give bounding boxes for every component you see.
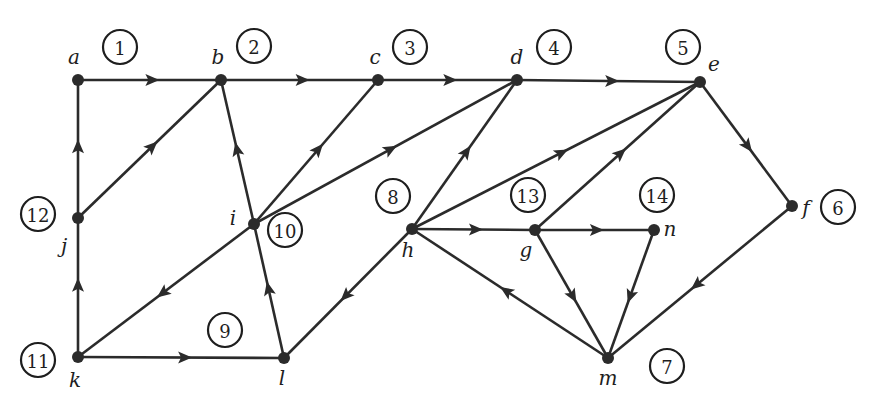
order-number-i: 10 xyxy=(274,221,297,242)
node-k xyxy=(72,351,84,363)
order-number-g: 13 xyxy=(517,186,540,207)
order-number-d: 4 xyxy=(548,38,559,59)
node-n xyxy=(648,224,660,236)
node-l xyxy=(278,352,290,364)
node-label-k: k xyxy=(69,368,81,392)
node-label-g: g xyxy=(520,238,533,262)
order-number-m: 7 xyxy=(661,357,672,378)
node-label-n: n xyxy=(664,217,677,241)
node-label-a: a xyxy=(68,45,80,69)
node-f xyxy=(786,200,798,212)
arrowhead-icon xyxy=(739,137,752,152)
node-label-f: f xyxy=(800,196,813,220)
arrowhead-icon xyxy=(157,284,172,297)
order-number-e: 5 xyxy=(677,38,688,59)
order-number-l: 9 xyxy=(219,321,230,342)
order-number-a: 1 xyxy=(114,38,125,59)
order-number-n: 14 xyxy=(646,186,669,207)
directed-graph-diagram: a1b2c3d4e5f6m7h8l9i10k11j12g13n14 xyxy=(0,0,885,404)
arrowhead-icon xyxy=(500,287,515,300)
node-g xyxy=(529,224,541,236)
labels-layer: a1b2c3d4e5f6m7h8l9i10k11j12g13n14 xyxy=(21,29,855,392)
node-label-l: l xyxy=(279,366,285,390)
node-label-j: j xyxy=(57,234,67,258)
order-number-j: 12 xyxy=(27,205,50,226)
edges-layer xyxy=(78,80,792,358)
node-j xyxy=(72,212,84,224)
order-number-b: 2 xyxy=(248,37,259,58)
edge-m-to-h xyxy=(412,229,608,358)
node-b xyxy=(215,74,227,86)
arrowheads-layer xyxy=(72,74,752,364)
node-c xyxy=(372,74,384,86)
node-m xyxy=(602,352,614,364)
node-label-h: h xyxy=(402,238,415,262)
node-label-i: i xyxy=(230,206,236,230)
node-a xyxy=(72,74,84,86)
node-e xyxy=(694,76,706,88)
node-d xyxy=(511,74,523,86)
node-label-b: b xyxy=(212,45,225,69)
node-label-m: m xyxy=(599,366,618,390)
node-h xyxy=(406,223,418,235)
node-label-e: e xyxy=(708,52,720,76)
order-number-c: 3 xyxy=(404,38,415,59)
arrowhead-icon xyxy=(458,146,471,161)
node-i xyxy=(248,218,260,230)
node-label-d: d xyxy=(511,45,524,69)
order-number-h: 8 xyxy=(387,187,398,208)
order-number-k: 11 xyxy=(27,351,50,372)
order-number-f: 6 xyxy=(832,198,843,219)
node-label-c: c xyxy=(369,45,380,69)
